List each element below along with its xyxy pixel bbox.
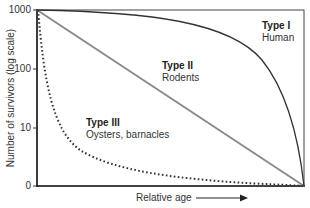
type-iii-label: Type III Oysters, barnacles bbox=[86, 117, 169, 141]
type-ii-example: Rodents bbox=[162, 72, 199, 84]
type-i-example: Human bbox=[262, 32, 294, 44]
y-axis-title: Number of survivors (log scale) bbox=[5, 13, 17, 183]
survivorship-chart: 1000 100 10 0 Number of survivors (log s… bbox=[0, 0, 310, 208]
x-axis-title: Relative age bbox=[136, 192, 192, 204]
arrow-right-icon bbox=[240, 195, 248, 202]
type-i-label: Type I Human bbox=[262, 20, 294, 44]
type-iii-example: Oysters, barnacles bbox=[86, 129, 169, 141]
type-ii-label: Type II Rodents bbox=[162, 60, 199, 84]
type-i-name: Type I bbox=[262, 20, 294, 32]
type-iii-name: Type III bbox=[86, 117, 169, 129]
type-ii-name: Type II bbox=[162, 60, 199, 72]
